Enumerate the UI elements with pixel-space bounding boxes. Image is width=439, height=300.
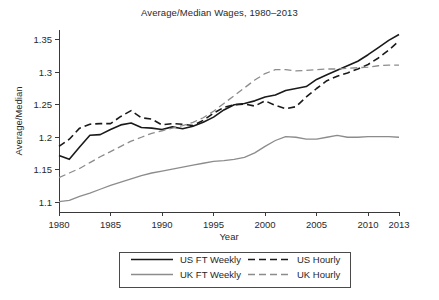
line-chart: 1.11.151.21.251.31.35 198019851990199520… — [0, 0, 439, 300]
x-tick-label: 2010 — [358, 219, 379, 230]
figure: Average/Median Wages, 1980–2013 1.11.151… — [0, 0, 439, 300]
x-tick-label: 1985 — [100, 219, 121, 230]
x-tick-label: 1990 — [151, 219, 172, 230]
y-tick-label: 1.15 — [34, 164, 53, 175]
series-line-uk-ft-weekly — [59, 135, 399, 201]
x-tick-label: 2000 — [254, 219, 275, 230]
y-axis-label: Average/Median — [13, 86, 24, 155]
axes — [59, 30, 399, 212]
y-tick-label: 1.35 — [34, 34, 53, 45]
y-tick-label: 1.3 — [39, 67, 52, 78]
legend-label: UK FT Weekly — [180, 269, 241, 280]
series-line-us-ft-weekly — [59, 35, 399, 160]
x-tick-label: 1995 — [203, 219, 224, 230]
legend-label: UK Hourly — [297, 269, 341, 280]
x-axis-ticks: 19801985199019952000200520102013 — [48, 212, 409, 230]
legend-label: US FT Weekly — [180, 254, 241, 265]
y-tick-label: 1.1 — [39, 197, 52, 208]
series-line-uk-hourly — [59, 65, 399, 177]
figure-caption — [8, 289, 428, 298]
x-tick-label: 1980 — [48, 219, 69, 230]
series-lines — [59, 35, 399, 202]
x-axis-label: Year — [219, 231, 238, 242]
y-axis-ticks: 1.11.151.21.251.31.35 — [34, 34, 60, 208]
chart-legend: US FT WeeklyUS HourlyUK FT WeeklyUK Hour… — [120, 253, 351, 288]
x-tick-label: 2005 — [306, 219, 327, 230]
y-tick-label: 1.2 — [39, 132, 52, 143]
legend-label: US Hourly — [297, 254, 341, 265]
y-tick-label: 1.25 — [34, 99, 53, 110]
x-tick-label: 2013 — [388, 219, 409, 230]
